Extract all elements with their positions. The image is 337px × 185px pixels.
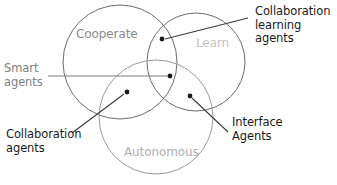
circle-label-learn: Learn (196, 37, 229, 50)
circle-cooperate (63, 5, 177, 119)
circle-label-autonomous: Autonomous (124, 146, 199, 159)
leader-interface-agents (188, 94, 228, 132)
callout-collaboration-learning-agents: Collaboration learning agents (255, 5, 330, 46)
callout-collaboration-agents: Collaboration agents (6, 128, 81, 155)
circle-label-cooperate: Cooperate (76, 28, 138, 41)
venn-diagram-canvas: Cooperate Learn Autonomous Smart agents … (0, 0, 337, 185)
callout-interface-agents: Interface Agents (232, 116, 283, 143)
callout-smart-agents: Smart agents (4, 62, 43, 89)
leader-smart-agents (48, 74, 172, 79)
circle-learn (147, 13, 245, 111)
